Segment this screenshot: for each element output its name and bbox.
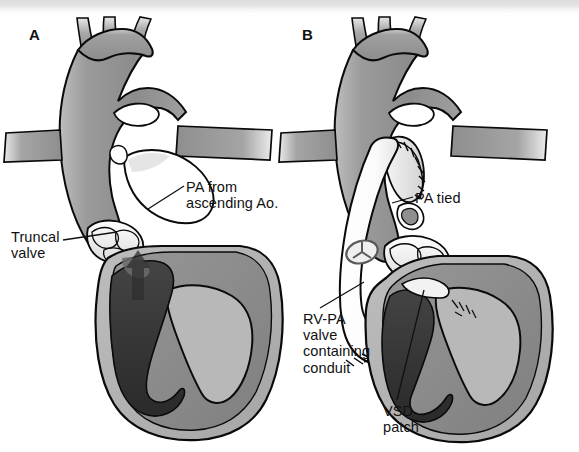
right-pulmonary-artery-a	[4, 130, 62, 162]
medical-illustration	[0, 0, 579, 452]
figure-canvas: A B PA from ascending Ao. Truncal valve …	[0, 0, 579, 452]
left-pulmonary-artery-b	[451, 126, 547, 160]
panel-a-letter: A	[29, 27, 40, 42]
callout-vsd-patch: VSD patch	[383, 403, 419, 435]
callout-pa-from-ascending-ao: PA from ascending Ao.	[186, 179, 278, 211]
callout-pa-tied: PA tied	[415, 190, 461, 206]
pa-lumen-slot-a	[110, 146, 127, 164]
left-pulmonary-artery-a	[176, 126, 272, 160]
panel-b-artwork	[279, 17, 553, 442]
panel-b-letter: B	[302, 27, 313, 42]
callout-truncal-valve: Truncal valve	[11, 229, 60, 261]
right-pulmonary-artery-b	[279, 130, 337, 162]
callout-rv-pa-valve-containing-conduit: RV-PA valve containing conduit	[303, 311, 370, 376]
